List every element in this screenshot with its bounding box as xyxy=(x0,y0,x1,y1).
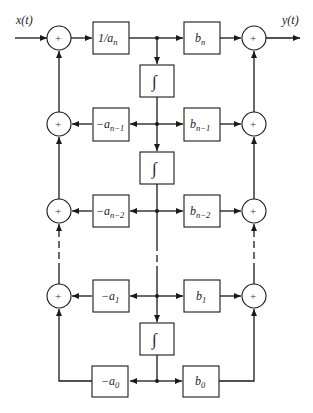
gain-base: −a xyxy=(101,289,115,303)
integrator-1: ∫ xyxy=(140,65,174,97)
gain-neg-a1: −a1 xyxy=(93,280,129,312)
junction-node xyxy=(155,122,159,126)
gain-neg-an-1: −an−1 xyxy=(93,108,129,141)
gain-subscript: n xyxy=(201,37,205,47)
plus-sign: + xyxy=(250,32,256,44)
plus-sign: + xyxy=(55,290,61,302)
junction-node xyxy=(155,379,159,383)
gain-1-over-an: 1/an xyxy=(93,22,129,54)
gain-base: −a xyxy=(101,374,115,388)
gain-base: −a xyxy=(96,204,110,218)
junction-node xyxy=(155,36,159,40)
block-diagram: x(t) y(t) + + + + + + + + xyxy=(0,0,313,413)
gain-subscript: 1 xyxy=(202,295,206,305)
gain-b0: b0 xyxy=(183,366,219,397)
gain-subscript: n−1 xyxy=(196,123,210,133)
integrator-2: ∫ xyxy=(140,152,174,184)
gain-neg-an-2: −an−2 xyxy=(93,195,129,227)
output-label: y(t) xyxy=(281,13,299,27)
gain-neg-a0: −a0 xyxy=(92,366,128,397)
gain-subscript: 1 xyxy=(115,295,119,305)
right-link-bottom xyxy=(219,309,254,381)
gain-base: −a xyxy=(96,117,110,131)
plus-sign: + xyxy=(55,118,61,130)
gain-bn: bn xyxy=(184,22,220,54)
plus-sign: + xyxy=(250,118,256,130)
gain-b1: b1 xyxy=(184,280,220,312)
gain-subscript: n−2 xyxy=(196,210,211,220)
left-link-bottom xyxy=(59,309,92,381)
plus-sign: + xyxy=(55,32,61,44)
junction-node xyxy=(155,294,159,298)
integrator-3: ∫ xyxy=(140,323,174,355)
gain-subscript: n xyxy=(113,37,117,47)
input-label: x(t) xyxy=(15,13,33,27)
plus-sign: + xyxy=(55,205,61,217)
gain-base: 1/a xyxy=(98,31,113,45)
gain-bn-1: bn−1 xyxy=(184,108,220,141)
gain-subscript: n−2 xyxy=(110,210,125,220)
plus-sign: + xyxy=(250,290,256,302)
gain-bn-2: bn−2 xyxy=(184,195,220,227)
plus-sign: + xyxy=(250,205,256,217)
junction-node xyxy=(155,209,159,213)
gain-subscript: n−1 xyxy=(110,123,124,133)
